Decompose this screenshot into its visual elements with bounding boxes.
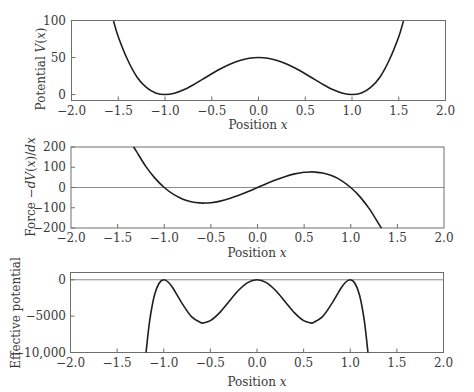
x-tick-label: 0.5 — [296, 104, 315, 118]
y-tick-label: 100 — [43, 14, 66, 28]
x-tick-label: 1.5 — [388, 231, 407, 245]
x-tick-label: 2.0 — [434, 231, 453, 245]
y-tick-label: −5000 — [25, 309, 66, 323]
x-tick-label: −1.0 — [150, 231, 179, 245]
effective-potential-curve — [146, 280, 368, 353]
x-tick-label: −2.0 — [57, 104, 86, 118]
y-axis-label-force: Force −dV(x)/dx — [24, 137, 38, 237]
x-ticks-potential: −2.0−1.5−1.0−0.50.00.51.01.52.0 — [57, 97, 455, 118]
x-tick-label: −1.0 — [149, 356, 178, 370]
x-tick-label: 0.0 — [248, 231, 267, 245]
y-tick-label: 0 — [58, 88, 66, 102]
x-tick-label: 1.5 — [389, 104, 408, 118]
x-tick-label: 0.0 — [249, 104, 268, 118]
y-tick-label: 0 — [58, 181, 66, 195]
y-ticks-force: 2001000−100−200 — [33, 140, 75, 235]
x-tick-label: −1.0 — [150, 104, 179, 118]
x-tick-label: 2.0 — [434, 356, 453, 370]
plot-frame-effective — [71, 273, 444, 353]
x-axis-label-effective: Position x — [227, 375, 286, 389]
x-axis-label-potential: Position x — [228, 118, 287, 132]
x-ticks-effective: −2.0−1.5−1.0−0.50.00.51.01.52.0 — [56, 349, 453, 370]
y-axis-label-effective: Effective potential — [9, 257, 23, 369]
y-ticks-effective: 0−5000−10,000 — [14, 273, 75, 360]
x-tick-label: −1.5 — [104, 104, 133, 118]
panel-force: −2.0−1.5−1.0−0.50.00.51.01.52.0 2001000−… — [24, 137, 454, 260]
x-tick-label: 1.5 — [387, 356, 406, 370]
x-tick-label: 0.0 — [247, 356, 266, 370]
x-tick-label: 2.0 — [436, 104, 455, 118]
x-tick-label: 0.5 — [295, 231, 314, 245]
x-tick-label: 1.0 — [341, 231, 360, 245]
potential-curve — [114, 21, 404, 94]
figure: −2.0−1.5−1.0−0.50.00.51.01.52.0 100500 P… — [0, 0, 474, 392]
x-tick-label: 0.5 — [294, 356, 313, 370]
y-tick-label: 50 — [51, 51, 66, 65]
x-tick-label: 1.0 — [342, 104, 361, 118]
y-tick-label: 100 — [43, 160, 66, 174]
x-tick-label: −1.5 — [103, 231, 132, 245]
panel-potential: −2.0−1.5−1.0−0.50.00.51.01.52.0 100500 P… — [34, 14, 455, 133]
y-tick-label: 200 — [43, 140, 66, 154]
x-tick-label: −0.5 — [196, 356, 225, 370]
y-axis-label-potential: Potential V(x) — [34, 28, 48, 111]
x-ticks-force: −2.0−1.5−1.0−0.50.00.51.01.52.0 — [56, 224, 453, 245]
x-tick-label: −0.5 — [196, 231, 225, 245]
x-tick-label: −1.5 — [103, 356, 132, 370]
x-tick-label: 1.0 — [341, 356, 360, 370]
x-axis-label-force: Position x — [227, 246, 286, 260]
x-tick-label: −0.5 — [197, 104, 226, 118]
y-tick-label: 0 — [58, 273, 66, 287]
panel-effective-potential: −2.0−1.5−1.0−0.50.00.51.01.52.0 0−5000−1… — [9, 257, 453, 389]
